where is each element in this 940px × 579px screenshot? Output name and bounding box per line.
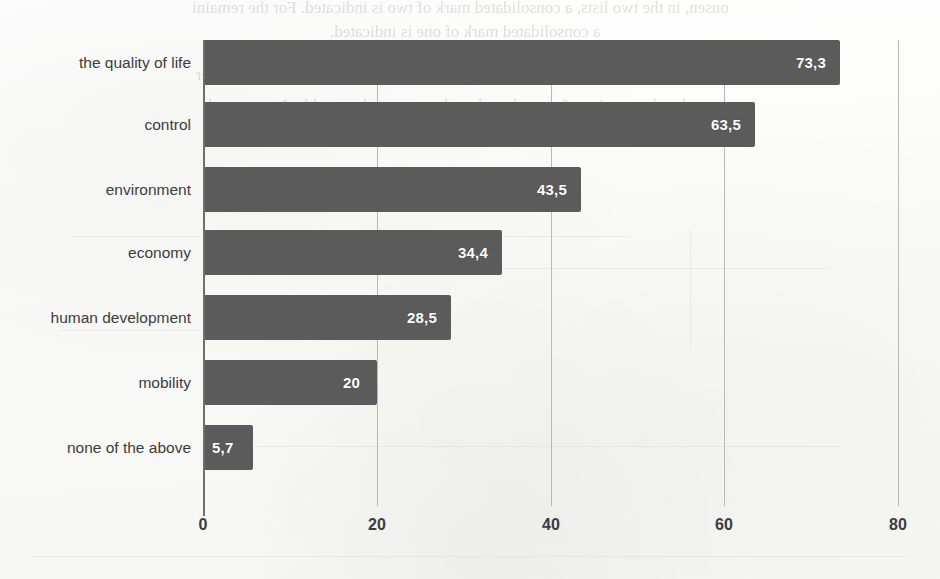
bar[interactable] (203, 102, 755, 147)
bar-value-label: 73,3 (796, 40, 826, 85)
bar-value-label: 20 (343, 360, 360, 405)
category-label: economy (17, 230, 203, 275)
bar-value-label: 5,7 (212, 425, 233, 470)
xtick-label: 80 (889, 516, 907, 534)
xtick-label: 20 (368, 516, 386, 534)
category-label: control (17, 102, 203, 147)
category-label: mobility (17, 360, 203, 405)
bar-value-label: 28,5 (407, 295, 437, 340)
bar-value-label: 63,5 (711, 102, 741, 147)
xtick-label: 40 (542, 516, 560, 534)
gridline-80 (898, 40, 899, 506)
category-label: human development (17, 295, 203, 340)
xtick-label: 60 (715, 516, 733, 534)
xtick-label: 0 (199, 516, 208, 534)
value-axis-line (203, 40, 205, 516)
category-label: the quality of life (17, 40, 203, 85)
category-label: none of the above (17, 425, 203, 470)
category-label: environment (17, 167, 203, 212)
bar-value-label: 34,4 (458, 230, 488, 275)
bar[interactable] (203, 40, 840, 85)
bar-value-label: 43,5 (537, 167, 567, 212)
plot-area: 73,3 63,5 43,5 34,4 28,5 20 (203, 40, 898, 506)
bar[interactable] (203, 167, 581, 212)
category-axis: the quality of life control environment … (0, 40, 203, 506)
value-axis-ticks: 0 20 40 60 80 (203, 516, 898, 546)
chart-page: onsen, in the two lists, a consolidated … (0, 0, 940, 579)
bar-chart: the quality of life control environment … (0, 0, 940, 579)
